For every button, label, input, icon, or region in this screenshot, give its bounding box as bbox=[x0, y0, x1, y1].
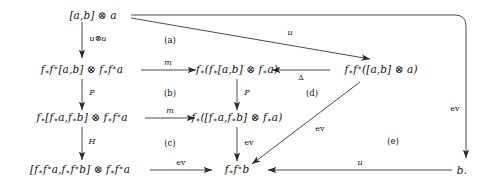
arrow-label-u-tensor-u: u⊗u bbox=[89, 35, 106, 43]
arrow-label-u-bottom: u bbox=[357, 159, 362, 167]
node-top: [a,b] ⊗ a bbox=[69, 10, 116, 21]
region-label-d: (d) bbox=[306, 89, 318, 98]
arrow-label-p-left: P bbox=[89, 89, 94, 97]
node-r2-left: f∗f∗[a,b] ⊗ f∗f∗a bbox=[41, 64, 123, 76]
region-label-b: (b) bbox=[164, 89, 176, 98]
arrow-label-ev-right: ev bbox=[450, 105, 459, 113]
arrow-label-u-diagonal: u bbox=[287, 29, 292, 37]
node-r3-left: f∗[f∗a,f∗b] ⊗ f∗f∗a bbox=[36, 112, 127, 124]
arrow-label-delta: Δ bbox=[298, 74, 304, 82]
node-r2-right: f∗f∗([a,b] ⊗ a) bbox=[344, 64, 417, 76]
arrow-label-h: H bbox=[89, 138, 96, 146]
region-label-a: (a) bbox=[164, 36, 176, 45]
node-r3-mid: f∗([f∗a,f∗b] ⊗ f∗a) bbox=[192, 112, 283, 124]
arrow-label-ev-mid: ev bbox=[244, 139, 253, 147]
node-r4-right: b. bbox=[457, 165, 467, 176]
node-r4-left: [f∗f∗a,f∗f∗b] ⊗ f∗f∗a bbox=[30, 164, 130, 176]
edge-top-to-b bbox=[131, 15, 466, 158]
arrow-label-ev-bottom: ev bbox=[176, 159, 185, 167]
arrow-label-p-mid: P bbox=[244, 89, 249, 97]
arrow-label-m-row2: m bbox=[164, 59, 172, 67]
arrow-label-m-row3: m bbox=[166, 107, 174, 115]
commutative-diagram: [a,b] ⊗ a f∗f∗[a,b] ⊗ f∗f∗a f∗(f∗[a,b] ⊗… bbox=[0, 0, 484, 196]
node-r2-mid: f∗(f∗[a,b] ⊗ f∗a) bbox=[196, 64, 278, 76]
node-r4-mid: f∗f∗b bbox=[225, 164, 249, 176]
arrow-label-ev-diagonal: ev bbox=[315, 125, 324, 133]
region-label-e: (e) bbox=[387, 137, 399, 146]
region-label-c: (c) bbox=[164, 139, 175, 148]
